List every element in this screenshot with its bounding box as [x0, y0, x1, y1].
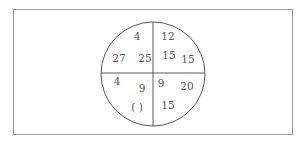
missing-number-blank: ( )	[131, 102, 143, 113]
number-tr-top: 12	[161, 31, 174, 42]
number-br-top: 9	[158, 78, 165, 89]
number-tr-left: 15	[162, 50, 175, 61]
number-tl-right: 25	[138, 53, 151, 64]
number-tr-right: 15	[181, 54, 194, 65]
number-bl-right: 9	[139, 83, 146, 94]
number-bl-top: 4	[114, 76, 121, 87]
number-tl-left: 27	[112, 53, 125, 64]
circle-diagram	[0, 0, 305, 141]
number-tl-top: 4	[134, 31, 141, 42]
number-br-bottom: 15	[161, 100, 174, 111]
number-br-right: 20	[180, 81, 193, 92]
